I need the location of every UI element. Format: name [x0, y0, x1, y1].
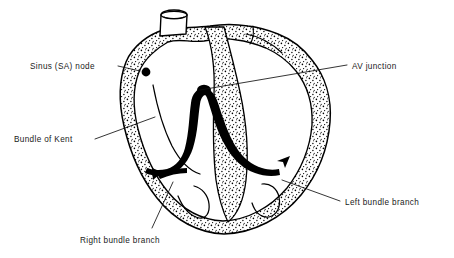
sa-node-dot: [142, 68, 151, 77]
label-av-junction: AV junction: [352, 62, 397, 71]
great-vessel-stub-group: [160, 10, 187, 36]
cardiac-conduction-diagram: Sinus (SA) node AV junction Bundle of Ke…: [0, 0, 454, 258]
label-bundle-of-kent: Bundle of Kent: [14, 135, 73, 144]
av-junction-bundle: [197, 85, 211, 95]
label-left-bundle-branch: Left bundle branch: [345, 198, 419, 207]
label-sinus-sa-node: Sinus (SA) node: [30, 62, 95, 71]
label-right-bundle-branch: Right bundle branch: [80, 236, 160, 245]
heart-diagram-canvas: Sinus (SA) node AV junction Bundle of Ke…: [0, 0, 454, 258]
